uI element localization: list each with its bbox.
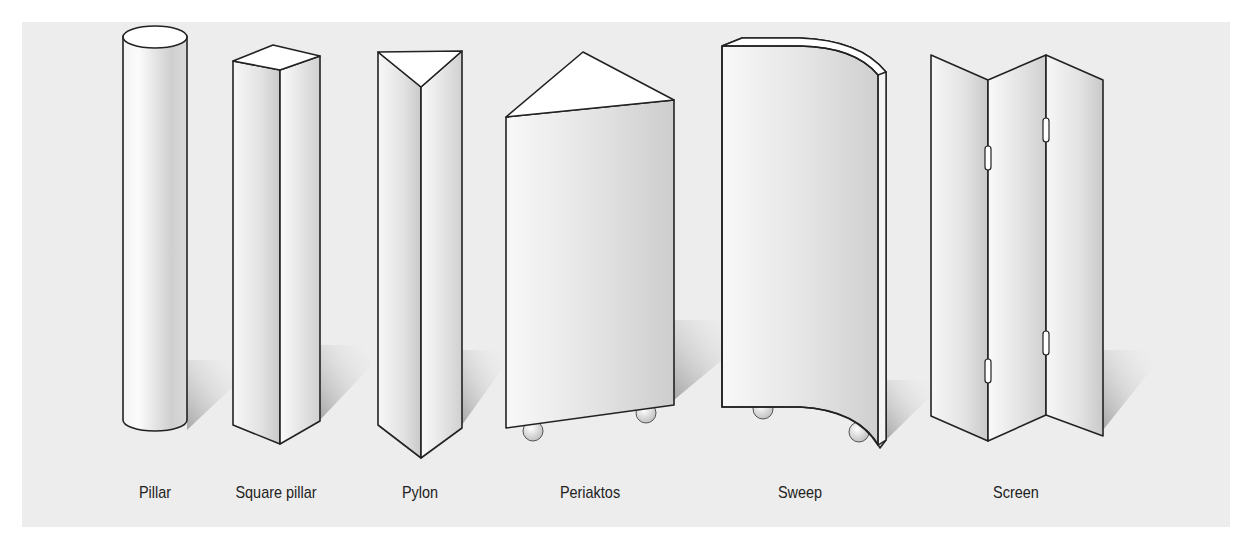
label-pillar: Pillar bbox=[139, 483, 171, 503]
label-pylon: Pylon bbox=[402, 483, 438, 503]
label-screen: Screen bbox=[993, 483, 1039, 503]
label-periaktos: Periaktos bbox=[560, 483, 620, 503]
pylon-shape bbox=[378, 51, 462, 458]
hinge-icon bbox=[1043, 331, 1049, 355]
scenery-illustration bbox=[0, 0, 1249, 543]
hinge-icon bbox=[985, 359, 991, 383]
periaktos-shape bbox=[506, 52, 674, 441]
pillar-shape bbox=[123, 26, 187, 431]
sweep-shape bbox=[722, 38, 886, 448]
hinge-icon bbox=[1043, 118, 1049, 142]
square-pillar-shape bbox=[233, 45, 320, 444]
label-sweep: Sweep bbox=[778, 483, 822, 503]
label-square-pillar: Square pillar bbox=[235, 483, 316, 503]
hinge-icon bbox=[985, 146, 991, 170]
screen-shape bbox=[931, 55, 1103, 441]
